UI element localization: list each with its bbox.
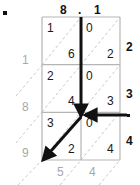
right-label-2: 4	[126, 135, 133, 147]
lattice-multiplication-diagram: 160224033204 8.123418954	[0, 0, 140, 185]
bottom-result-label-0: 5	[57, 166, 64, 178]
left-result-label-0: 1	[22, 54, 29, 66]
labels-layer: 8.123418954	[0, 0, 140, 185]
bottom-result-label-1: 4	[89, 166, 96, 178]
top-label-1: .	[78, 4, 81, 16]
left-result-label-1: 8	[22, 101, 29, 113]
right-label-0: 2	[126, 41, 133, 53]
right-label-1: 3	[126, 88, 133, 100]
right-decimal-dot-marker	[127, 114, 130, 117]
top-label-2: 1	[94, 4, 101, 16]
top-left-dot-marker	[3, 11, 7, 15]
top-label-0: 8	[60, 4, 67, 16]
left-result-label-2: 9	[22, 147, 29, 159]
